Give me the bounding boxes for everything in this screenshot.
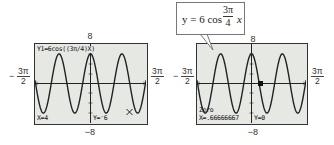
right-zero-label: Zero xyxy=(199,107,213,114)
right-xmax-den: 2 xyxy=(311,77,324,86)
left-xmin-sign: − xyxy=(9,72,14,81)
trace-cursor-icon xyxy=(127,109,133,115)
left-x-readout: X=4 xyxy=(37,115,48,122)
right-xmin-sign: − xyxy=(173,72,178,81)
right-ymin-label: −8 xyxy=(245,127,261,137)
left-xmax-den: 2 xyxy=(151,77,164,86)
left-ymin-label: −8 xyxy=(82,127,98,137)
left-equation-readout: Y1=6cos((3π/4)X) xyxy=(37,46,95,53)
zero-point-cursor-icon xyxy=(258,81,263,86)
left-xmin-label: − 3π 2 xyxy=(17,67,30,86)
left-y-readout: Y=⁻6 xyxy=(93,115,107,122)
right-x-readout: X=.66666667 xyxy=(199,115,239,122)
callout-var: x xyxy=(237,13,242,25)
left-xmin-den: 2 xyxy=(17,77,30,86)
callout-num: 3π xyxy=(223,4,233,17)
callout-fraction: 3π 4 xyxy=(223,4,233,29)
left-plot-area xyxy=(35,44,146,123)
equation-callout: y = 6 cos 3π 4 x xyxy=(176,2,245,35)
right-calculator-screen: Zero X=.66666667 Y=0 xyxy=(196,43,308,125)
right-xmax-label: 3π 2 xyxy=(311,67,324,86)
callout-lhs: y = 6 cos xyxy=(182,13,222,25)
right-xmin-label: − 3π 2 xyxy=(181,67,194,86)
callout-den: 4 xyxy=(226,17,231,28)
left-xmax-label: 3π 2 xyxy=(151,67,164,86)
left-ymax-label: 8 xyxy=(84,31,96,41)
right-y-readout: Y=0 xyxy=(254,115,265,122)
right-xmin-den: 2 xyxy=(181,77,194,86)
left-graph-panel: 8 − 3π 2 3π 2 −8 Y1=6cos((3π/4)X) X=4 Y=… xyxy=(0,0,167,145)
left-calculator-screen: Y1=6cos((3π/4)X) X=4 Y=⁻6 xyxy=(34,43,148,125)
